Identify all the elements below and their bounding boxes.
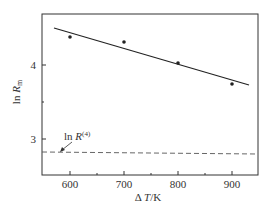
y-tick-label: 4 bbox=[31, 59, 37, 71]
x-tick-label: 900 bbox=[224, 178, 241, 190]
reference-dashed-line bbox=[42, 152, 258, 154]
x-axis-label: Δ T/K bbox=[135, 191, 161, 203]
x-tick-label: 700 bbox=[116, 178, 133, 190]
y-tick-label: 3 bbox=[31, 133, 37, 145]
data-points bbox=[68, 35, 234, 86]
data-point bbox=[122, 40, 126, 44]
x-axis-ticks bbox=[70, 171, 232, 175]
plot-frame bbox=[42, 14, 258, 175]
y-axis-label: ln Rm bbox=[10, 79, 24, 104]
chart: 600 700 800 900 4 3 Δ T/K ln Rm ln R(4) bbox=[0, 0, 273, 213]
annotation-label: ln R(4) bbox=[64, 130, 91, 142]
fit-line bbox=[54, 28, 249, 85]
data-point bbox=[230, 82, 234, 86]
data-point bbox=[68, 35, 72, 39]
x-tick-label: 600 bbox=[62, 178, 79, 190]
x-tick-label: 800 bbox=[170, 178, 187, 190]
y-axis-ticks bbox=[42, 65, 46, 139]
data-point bbox=[176, 61, 180, 65]
